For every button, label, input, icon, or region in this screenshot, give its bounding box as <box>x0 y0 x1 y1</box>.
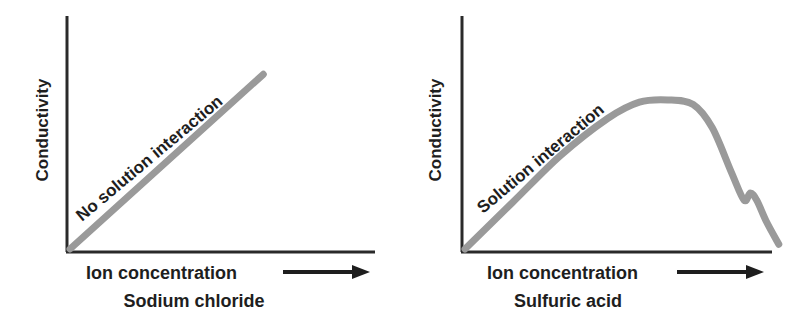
chart-sulfuric-acid: Conductivity Solution interaction Ion co… <box>426 16 779 311</box>
conductivity-charts: Conductivity No solution interaction Ion… <box>0 0 808 329</box>
series-line-sodium-chloride <box>70 74 263 249</box>
y-axis-label: Conductivity <box>33 78 52 181</box>
right-arrow-icon <box>677 265 764 279</box>
chart-subtitle: Sulfuric acid <box>514 291 622 311</box>
y-axis-label: Conductivity <box>426 78 445 181</box>
x-axis-label: Ion concentration <box>86 263 237 283</box>
chart-sodium-chloride: Conductivity No solution interaction Ion… <box>33 16 375 311</box>
x-axis-label: Ion concentration <box>487 263 638 283</box>
annotation-no-solution-interaction: No solution interaction <box>72 92 226 226</box>
right-arrow-icon <box>283 265 370 279</box>
chart-subtitle: Sodium chloride <box>123 291 264 311</box>
annotation-solution-interaction: Solution interaction <box>473 100 607 217</box>
